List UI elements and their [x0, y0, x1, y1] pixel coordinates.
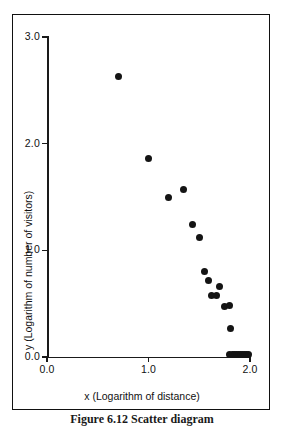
figure-caption: Figure 6.12 Scatter diagram — [0, 412, 284, 427]
figure-frame — [12, 14, 270, 410]
